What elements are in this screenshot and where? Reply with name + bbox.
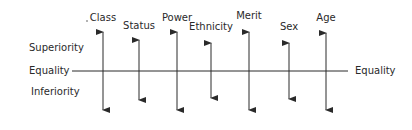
dimension-label-class: Class: [90, 12, 116, 23]
dimension-label-sex: Sex: [280, 21, 298, 32]
dimension-label-age: Age: [316, 12, 335, 23]
dimension-label-merit: Merit: [236, 10, 262, 21]
superiority-label: Superiority: [29, 42, 84, 53]
equality-right-label: Equality: [355, 65, 396, 76]
equality-dimensions-diagram: Superiority Equality Inferiority Equalit…: [0, 0, 412, 130]
dimension-label-status: Status: [123, 20, 155, 31]
dimension-label-ethnicity: Ethnicity: [189, 21, 233, 32]
stray-mark: [86, 20, 88, 22]
dimension-label-power: Power: [162, 12, 192, 23]
equality-left-label: Equality: [29, 65, 70, 76]
inferiority-label: Inferiority: [31, 86, 80, 97]
